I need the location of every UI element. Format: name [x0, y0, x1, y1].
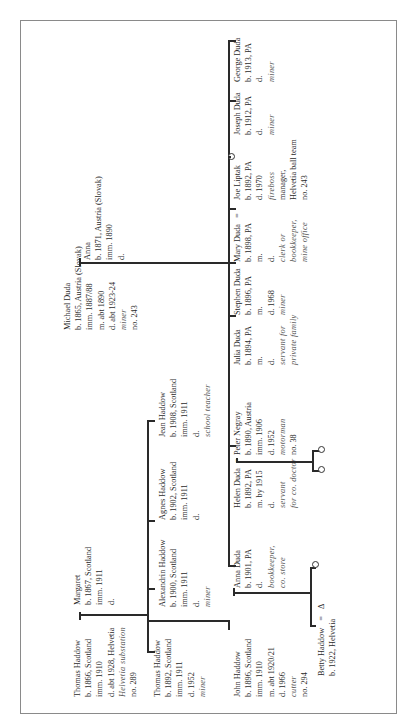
marriage-symbol: =: [233, 213, 242, 218]
female-symbol-icon: [318, 466, 325, 473]
person-detail: d.: [116, 176, 127, 260]
person-george-duda: George Duda b. 1913, PA d. miner: [232, 38, 277, 82]
person-detail: b. 1913, PA: [243, 38, 254, 82]
occupation: servant for: [277, 314, 288, 365]
occupation: cutter: [288, 639, 299, 697]
person-peter-negray: Peter Negray b. 1890, Austria imm. 1906 …: [232, 402, 299, 455]
person-detail: b. 1896, Scotland: [243, 639, 254, 697]
person-name: Peter Negray: [232, 402, 243, 455]
person-name: Michael Duda: [62, 246, 73, 330]
person-jean-haddow: Jean Haddow b. 1908, Scotland imm. 1911 …: [157, 379, 213, 437]
person-detail: b. 1908, Scotland: [168, 379, 179, 437]
occupation: miner: [277, 268, 288, 315]
person-detail: b. 1892, PA: [243, 458, 254, 508]
person-detail: imm. 1911: [179, 462, 190, 520]
person-detail: b. 1898, PA: [243, 213, 254, 262]
person-detail: m.: [254, 314, 265, 365]
person-detail: d. 1966: [277, 639, 288, 697]
person-detail: d. 1970: [254, 139, 265, 200]
occupation: Helvetia substation: [117, 627, 128, 697]
person-mary-duda: Mary Duda = b. 1898, PA m. d. clerk or b…: [232, 213, 310, 262]
person-detail: imm. 1911: [179, 379, 190, 437]
person-detail: m.: [254, 213, 265, 262]
person-anna-duda: Anna Duda b. 1901, PA d. bookkeeper, co.…: [232, 545, 288, 588]
person-anna-mother: Anna b. 1871, Austria (Slovak) imm. 1890…: [82, 176, 127, 260]
grandchildren-bracket: [310, 567, 312, 626]
person-detail: d.: [266, 314, 277, 365]
occupation: servant: [277, 458, 288, 508]
person-joe-liptak: Joe Liptak b. 1892, PA d. 1970 fireboss …: [232, 139, 310, 200]
person-detail: no. 243: [299, 139, 310, 200]
person-joseph-duda: Joseph Duda b. 1912, PA d. miner: [232, 92, 277, 135]
occupation: bookkeeper,: [266, 545, 277, 588]
person-stephen-duda: Stephen Duda b. 1896, PA m. d. 1968 mine…: [232, 268, 288, 315]
descent-line-helen-peter: [237, 461, 313, 463]
sibling-tick: [147, 588, 155, 590]
person-detail: b. 1894, PA: [243, 314, 254, 365]
occupation: miner: [202, 539, 213, 607]
person-detail: no. 38: [288, 402, 299, 455]
person-name: Joseph Duda: [232, 92, 243, 135]
occupation: co. store: [277, 545, 288, 588]
person-detail: no. 289: [128, 627, 139, 697]
grandchildren-bracket-negray: [312, 450, 314, 472]
person-detail: d. 1968: [266, 268, 277, 315]
connector-john: [147, 620, 229, 622]
sibling-tick: [228, 156, 231, 158]
person-name: Margaret: [72, 547, 83, 605]
occupation: clerk or: [277, 213, 288, 262]
person-detail: b. 1896, PA: [243, 268, 254, 315]
duda-descent-line: [80, 262, 230, 264]
haddow-descent-line: [80, 614, 148, 616]
person-detail: b. 1871, Austria (Slovak): [93, 176, 104, 260]
person-name: Betty Haddow: [317, 628, 326, 676]
duda-siblings-line: [228, 40, 230, 566]
person-thomas-haddow-jr: Thomas Haddow b. 1892, Scotland imm. 191…: [152, 639, 208, 697]
person-name: Jean Haddow: [157, 379, 168, 437]
person-detail: m.: [254, 268, 265, 315]
person-agnes-haddow: Agnes Haddow b. 1902, Scotland imm. 1911…: [157, 462, 202, 520]
marriage-line-duda: [79, 258, 81, 266]
person-detail: d. abt 1928, Helvetia: [106, 627, 117, 697]
occupation: bookkeeper,: [288, 213, 299, 262]
person-detail: d.: [254, 38, 265, 82]
person-detail: d. 1952: [266, 402, 277, 455]
person-name: George Duda: [232, 38, 243, 82]
occupation: private family: [288, 314, 299, 365]
person-detail: Helvetia ball team: [288, 139, 299, 200]
person-detail: b. 1892, PA: [243, 139, 254, 200]
person-detail: imm. 1911: [174, 639, 185, 697]
person-thomas-haddow-sr: Thomas Haddow b. 1866, Scotland imm. 191…: [72, 627, 139, 697]
descent-line-betty: [234, 592, 311, 594]
connector-john-v: [228, 620, 230, 630]
occupation: motorman: [277, 402, 288, 455]
person-detail: d.: [266, 458, 277, 508]
female-symbol-icon: [312, 561, 319, 568]
person-detail: d.: [254, 92, 265, 135]
person-name: Joe Liptak: [232, 139, 243, 200]
person-detail: m. by 1915: [254, 458, 265, 508]
sibling-tick: [228, 262, 236, 264]
person-name: Thomas Haddow: [152, 639, 163, 697]
person-detail: d.: [266, 213, 277, 262]
person-detail: b. 1901, PA: [243, 545, 254, 588]
person-detail: d.: [191, 462, 202, 520]
person-alexandrin-haddow: Alexandrin Haddow b. 1900, Scotland imm.…: [157, 539, 213, 607]
person-detail: no. 243: [129, 246, 140, 330]
haddow-siblings-line: [147, 420, 149, 652]
person-margaret: Margaret b. 1867, Scotland imm. 1911 d.: [72, 547, 117, 605]
person-john-haddow: John Haddow b. 1896, Scotland imm. 1910 …: [232, 639, 310, 697]
person-name: Julia Duda: [232, 314, 243, 365]
person-name: Mary Duda: [233, 224, 242, 262]
occupation: miner: [266, 92, 277, 135]
person-detail: d. 1952: [186, 639, 197, 697]
person-name: Stephen Duda: [232, 268, 243, 315]
person-detail: b. 1892, Scotland: [163, 639, 174, 697]
person-name: Agnes Haddow: [157, 462, 168, 520]
person-betty-haddow: Betty Haddow = Δ b. 1922, Helvetia: [316, 604, 338, 676]
person-detail: d.: [106, 547, 117, 605]
diagram-frame: [20, 20, 397, 714]
marriage-symbol: =: [317, 616, 326, 621]
person-detail: m. abt 1920/21: [266, 639, 277, 697]
person-name: Helen Duda: [233, 468, 242, 508]
